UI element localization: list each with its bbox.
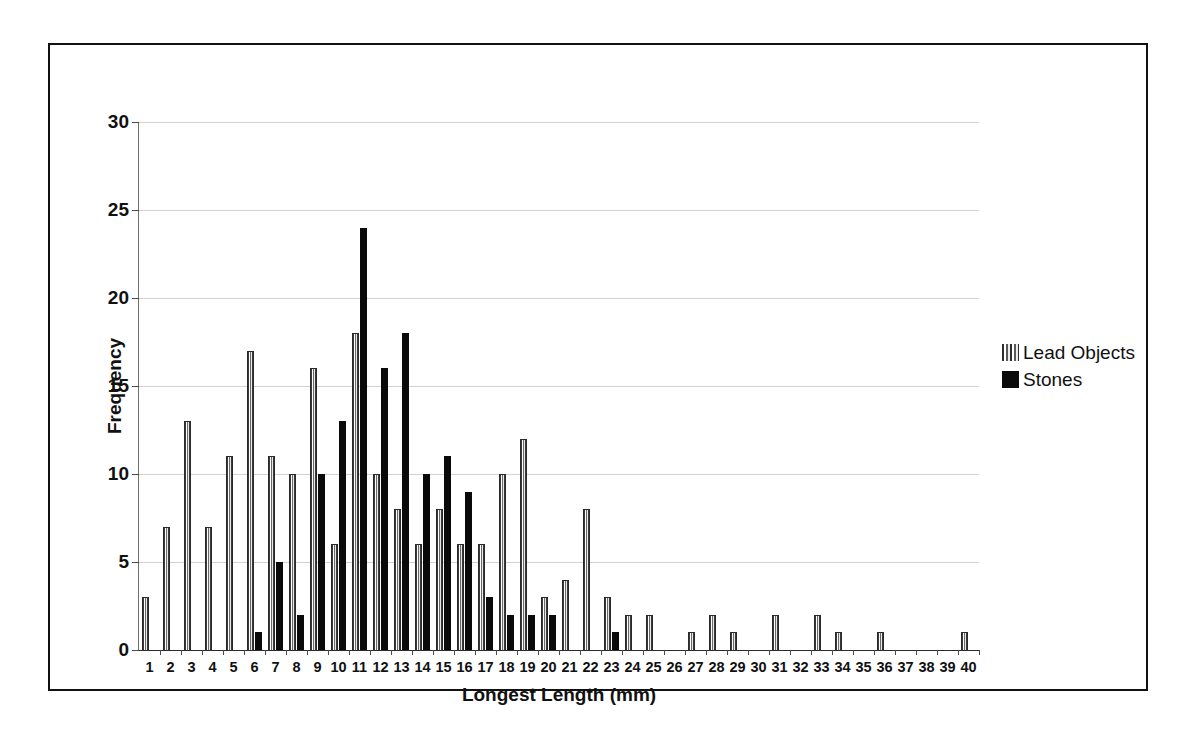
x-tick-label: 27 [687,659,703,675]
x-tick-mark [307,650,308,655]
x-tick-label: 10 [330,659,346,675]
y-tick-label: 0 [118,639,129,661]
bar-stones-19 [528,615,535,650]
chart-figure: Frequency 051015202530 12345678910111213… [48,43,1148,691]
x-tick-mark [391,650,392,655]
gridline [139,210,979,211]
x-tick-mark [622,650,623,655]
chart-legend: Lead ObjectsStones [1002,339,1135,393]
x-tick-label: 13 [393,659,409,675]
x-tick-label: 6 [250,659,258,675]
gridline [139,298,979,299]
bar-lead-objects-40 [961,632,968,650]
x-tick-label: 1 [145,659,153,675]
gridline [139,562,979,563]
x-tick-mark [349,650,350,655]
x-tick-label: 31 [771,659,787,675]
x-tick-label: 18 [498,659,514,675]
x-tick-label: 23 [603,659,619,675]
bar-lead-objects-15 [436,509,443,650]
bar-lead-objects-20 [541,597,548,650]
bar-stones-8 [297,615,304,650]
bar-lead-objects-6 [247,351,254,650]
x-tick-label: 14 [414,659,430,675]
x-tick-mark [328,650,329,655]
y-tick-label: 25 [108,199,129,221]
bar-stones-12 [381,368,388,650]
x-tick-mark [853,650,854,655]
bar-lead-objects-23 [604,597,611,650]
x-tick-label: 32 [792,659,808,675]
bar-lead-objects-25 [646,615,653,650]
x-tick-mark [937,650,938,655]
x-tick-mark [706,650,707,655]
bar-lead-objects-16 [457,544,464,650]
y-tick-label: 30 [108,111,129,133]
x-tick-label: 39 [939,659,955,675]
y-tick-label: 10 [108,463,129,485]
x-tick-label: 8 [292,659,300,675]
x-tick-mark [370,650,371,655]
x-tick-label: 2 [166,659,174,675]
x-tick-mark [664,650,665,655]
x-tick-mark [412,650,413,655]
gridline [139,386,979,387]
x-tick-label: 21 [561,659,577,675]
x-tick-mark [433,650,434,655]
bar-lead-objects-3 [184,421,191,650]
bar-lead-objects-24 [625,615,632,650]
x-tick-label: 25 [645,659,661,675]
x-tick-mark [160,650,161,655]
x-tick-mark [265,650,266,655]
bar-lead-objects-28 [709,615,716,650]
bar-lead-objects-7 [268,456,275,650]
x-tick-mark [895,650,896,655]
x-tick-label: 24 [624,659,640,675]
x-tick-mark [601,650,602,655]
bar-stones-15 [444,456,451,650]
x-tick-mark [832,650,833,655]
x-tick-mark [979,650,980,655]
bar-lead-objects-13 [394,509,401,650]
bar-stones-13 [402,333,409,650]
bar-lead-objects-36 [877,632,884,650]
bar-lead-objects-33 [814,615,821,650]
legend-item: Stones [1002,366,1135,393]
bar-lead-objects-21 [562,580,569,650]
x-tick-mark [643,650,644,655]
x-tick-mark [538,650,539,655]
x-tick-mark [517,650,518,655]
y-tick-label: 15 [108,375,129,397]
x-tick-label: 29 [729,659,745,675]
bar-stones-23 [612,632,619,650]
x-tick-label: 36 [876,659,892,675]
x-tick-label: 28 [708,659,724,675]
x-tick-mark [874,650,875,655]
bar-lead-objects-8 [289,474,296,650]
x-tick-mark [916,650,917,655]
bar-lead-objects-11 [352,333,359,650]
bar-lead-objects-17 [478,544,485,650]
x-tick-mark [559,650,560,655]
bar-stones-16 [465,492,472,650]
y-tick-mark [132,650,139,651]
x-tick-mark [685,650,686,655]
x-tick-label: 38 [918,659,934,675]
x-tick-mark [223,650,224,655]
x-tick-mark [811,650,812,655]
x-tick-label: 26 [666,659,682,675]
bar-stones-7 [276,562,283,650]
y-tick-mark [132,210,139,211]
x-tick-mark [748,650,749,655]
bar-lead-objects-2 [163,527,170,650]
x-tick-mark [181,650,182,655]
bar-lead-objects-14 [415,544,422,650]
x-tick-mark [454,650,455,655]
x-tick-label: 5 [229,659,237,675]
bar-stones-20 [549,615,556,650]
x-tick-label: 20 [540,659,556,675]
x-tick-label: 16 [456,659,472,675]
bar-stones-9 [318,474,325,650]
x-tick-mark [496,650,497,655]
bar-lead-objects-10 [331,544,338,650]
